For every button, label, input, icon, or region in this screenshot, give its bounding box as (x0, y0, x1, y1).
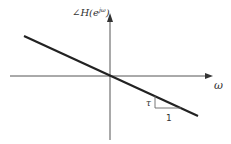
phase-diagram: ∠H(ejω) ω τ 1 (0, 0, 231, 144)
y-axis-label: ∠H(ejω) (72, 6, 110, 18)
x-axis-arrow-icon (205, 73, 213, 79)
x-axis-label: ω (214, 79, 223, 92)
slope-one-label: 1 (166, 113, 172, 123)
slope-tau-label: τ (146, 98, 152, 108)
